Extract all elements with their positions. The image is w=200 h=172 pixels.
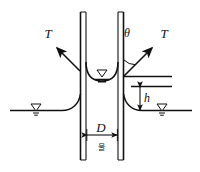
tension-label-right: T [160,26,168,41]
capillary-diagram-canvas: T T θ h D 물 [0,0,200,172]
rise-height-label: h [144,91,150,105]
water-level-symbol-meniscus [95,70,109,82]
tension-vector-left: T [44,26,80,71]
tension-vector-right: T θ [124,26,172,77]
rise-height-dimension: h [131,87,172,111]
water-hatch-left [33,113,39,115]
tension-label-left: T [44,26,52,41]
contact-angle-arc [124,60,135,65]
free-surface-left [10,94,81,111]
free-surface-right [124,94,193,111]
water-hatch-right [159,113,165,115]
diameter-dimension: D 물 [87,120,118,152]
arrow-up-right-icon [124,48,152,76]
fluid-note-label: 물 [98,143,105,152]
water-level-symbol-right [157,104,167,115]
capillary-rise-figure: T T θ h D 물 [0,0,200,172]
water-level-symbol-left [31,104,41,115]
water-level-triangle-meniscus [97,70,107,77]
arrow-up-left-icon [57,48,80,71]
diameter-label: D [95,120,106,135]
contact-angle-label: θ [124,26,130,40]
